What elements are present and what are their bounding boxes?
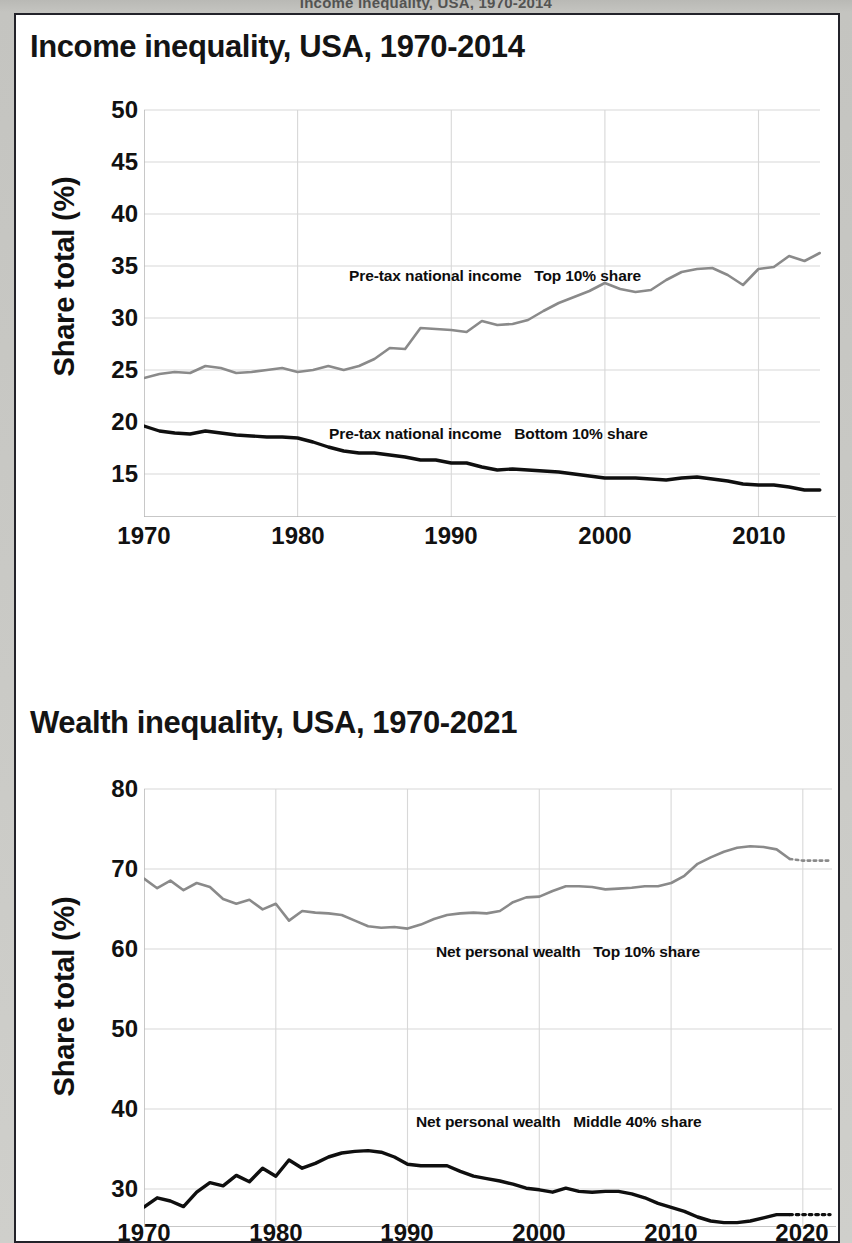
y-tick-40: 40 — [80, 1095, 138, 1123]
y-tick-40: 40 — [80, 200, 138, 228]
wealth-plot-svg — [144, 781, 836, 1227]
y-tick-30: 30 — [80, 304, 138, 332]
y-axis-label-income: Share total (%) — [48, 177, 81, 377]
y-tick-80: 80 — [80, 775, 138, 803]
figure-sheet: Income inequality, USA, 1970-2014 Share … — [14, 13, 840, 1243]
annotation-income-bottom10: Pre-tax national income Bottom 10% share — [329, 425, 648, 443]
y-tick-50: 50 — [80, 1015, 138, 1043]
y-tick-60: 60 — [80, 935, 138, 963]
annotation-income-top10: Pre-tax national income Top 10% share — [349, 267, 641, 285]
annotation-wealth-top10: Net personal wealth Top 10% share — [436, 943, 700, 961]
y-tick-20: 20 — [80, 408, 138, 436]
y-tick-30: 30 — [80, 1175, 138, 1203]
annotation-wealth-middle40: Net personal wealth Middle 40% share — [416, 1113, 702, 1131]
income-plot-svg — [144, 103, 836, 517]
y-tick-15: 15 — [80, 460, 138, 488]
gridlines-income — [144, 110, 836, 517]
x-tick-w-2010: 2010 — [623, 1219, 719, 1243]
series-wealth-middle40 — [144, 1151, 790, 1223]
y-tick-45: 45 — [80, 148, 138, 176]
y-tick-25: 25 — [80, 356, 138, 384]
y-tick-70: 70 — [80, 855, 138, 883]
x-tick-1980: 1980 — [250, 522, 346, 550]
x-tick-w-2020: 2020 — [754, 1219, 840, 1243]
page-title: Income inequality, USA, 1970-2014 — [30, 29, 525, 65]
x-tick-w-1970: 1970 — [96, 1219, 192, 1243]
x-tick-2000: 2000 — [557, 522, 653, 550]
x-tick-w-1980: 1980 — [228, 1219, 324, 1243]
series-wealth-top10-projection — [790, 859, 830, 861]
series-wealth-top10 — [144, 846, 790, 928]
y-tick-50: 50 — [80, 96, 138, 124]
y-tick-35: 35 — [80, 252, 138, 280]
x-tick-w-1990: 1990 — [359, 1219, 455, 1243]
screenshot-page: Income inequality, USA, 1970-2014 Income… — [0, 0, 852, 1243]
x-tick-w-2000: 2000 — [491, 1219, 587, 1243]
x-tick-1970: 1970 — [96, 522, 192, 550]
y-axis-label-wealth: Share total (%) — [48, 897, 81, 1097]
x-tick-1990: 1990 — [403, 522, 499, 550]
page-title-wealth: Wealth inequality, USA, 1970-2021 — [30, 705, 517, 741]
clipped-header-text: Income inequality, USA, 1970-2014 — [0, 0, 852, 10]
x-tick-2010: 2010 — [711, 522, 807, 550]
gridlines-wealth — [144, 789, 836, 1227]
